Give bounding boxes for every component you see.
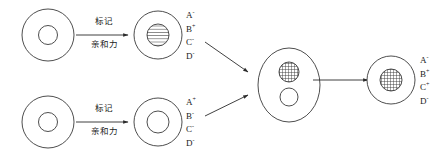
marker-item: C+ xyxy=(420,81,429,92)
nucleus-grid xyxy=(279,62,299,82)
diagram-vector-layer xyxy=(0,0,441,167)
cell-final xyxy=(367,56,415,104)
marker-item: A+ xyxy=(186,96,196,107)
diagram-canvas: 标记 亲和力 标记 亲和力 A- B+ C- D- A+ B- C- D- A-… xyxy=(0,0,441,167)
nucleus-plain xyxy=(39,26,58,45)
cell-top-left xyxy=(22,9,74,61)
nucleus-plain xyxy=(39,113,58,132)
cell-bottom-labeled xyxy=(134,98,182,146)
marker-item: D- xyxy=(186,137,196,148)
arrow-fusion-from-top xyxy=(205,42,248,72)
cell-hybrid xyxy=(258,48,320,122)
marker-item: B+ xyxy=(186,23,195,34)
nucleus-plain xyxy=(280,88,298,106)
nucleus-striped xyxy=(147,24,169,46)
arrow-fusion-from-bottom xyxy=(205,95,248,116)
marker-item: D- xyxy=(420,95,429,106)
nucleus-grid xyxy=(380,69,402,91)
marker-list-bottom-cell: A+ B- C- D- xyxy=(186,96,196,148)
marker-item: A- xyxy=(420,54,429,65)
marker-list-top-cell: A- B+ C- D- xyxy=(186,9,195,61)
marker-item: C- xyxy=(186,123,196,134)
nucleus-plain xyxy=(147,111,169,133)
arrow-top-label-below: 亲和力 xyxy=(82,40,126,49)
marker-item: A- xyxy=(186,9,195,20)
arrow-top-label-above: 标记 xyxy=(82,17,126,26)
marker-item: D- xyxy=(186,50,195,61)
cell-top-labeled xyxy=(134,11,182,59)
arrow-bottom-label-below: 亲和力 xyxy=(82,127,126,136)
marker-item: C- xyxy=(186,36,195,47)
marker-list-final-cell: A- B+ C+ D- xyxy=(420,54,429,106)
marker-item: B+ xyxy=(420,68,429,79)
arrow-bottom-label-above: 标记 xyxy=(82,104,126,113)
cell-bottom-left xyxy=(22,96,74,148)
marker-item: B- xyxy=(186,110,196,121)
